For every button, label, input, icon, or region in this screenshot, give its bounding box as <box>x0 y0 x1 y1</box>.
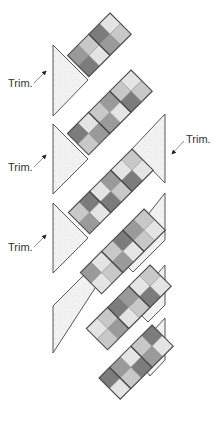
trim-label-1: Trim. <box>8 77 33 89</box>
trim-arrow-icon <box>172 141 184 154</box>
trim-label-3: Trim. <box>8 161 33 173</box>
trim-label-2: Trim. <box>186 133 211 145</box>
quilt-assembly-diagram <box>0 0 221 430</box>
trim-arrow-icon <box>34 155 46 167</box>
strip-1 <box>68 13 132 77</box>
trim-arrow-icon <box>34 235 46 247</box>
trim-arrow-icon <box>34 71 46 83</box>
trim-label-4: Trim. <box>8 241 33 253</box>
